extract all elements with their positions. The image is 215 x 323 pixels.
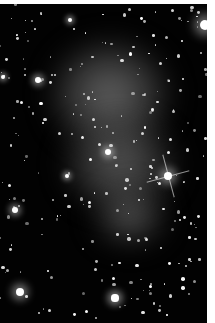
star [82, 292, 85, 295]
star [149, 165, 152, 168]
star [150, 173, 152, 175]
star [181, 277, 185, 281]
star [156, 101, 159, 104]
star [185, 265, 187, 267]
star [174, 201, 175, 202]
star [143, 199, 144, 200]
star [67, 205, 70, 208]
star [13, 197, 16, 200]
star [41, 234, 43, 236]
star [200, 20, 207, 31]
star [8, 77, 10, 79]
star [141, 311, 144, 314]
star [105, 192, 108, 195]
star [11, 244, 13, 246]
nebula-glow-lower [95, 189, 165, 244]
star [27, 40, 29, 42]
star [197, 21, 198, 22]
star [105, 42, 107, 44]
star [196, 16, 197, 17]
star [200, 52, 202, 54]
star [188, 236, 191, 239]
star [105, 149, 111, 155]
star [9, 199, 11, 201]
star [111, 294, 118, 301]
star [58, 132, 61, 135]
star [24, 160, 25, 161]
star [32, 112, 35, 115]
star [164, 283, 165, 284]
star [85, 104, 86, 105]
star [158, 137, 160, 139]
star [0, 45, 1, 47]
star [169, 294, 172, 297]
star [56, 218, 58, 220]
star [165, 36, 168, 39]
star [116, 233, 119, 236]
star [181, 20, 183, 22]
star [16, 34, 18, 36]
star [193, 280, 196, 283]
star [1, 72, 2, 73]
star [91, 56, 94, 59]
star [195, 227, 196, 228]
star [25, 295, 28, 298]
star [196, 177, 199, 180]
star [11, 18, 12, 19]
star [13, 206, 15, 208]
star [179, 89, 182, 92]
star [158, 309, 161, 312]
star [83, 204, 84, 205]
star [205, 73, 207, 76]
star [136, 298, 138, 300]
star [82, 248, 84, 250]
star [25, 20, 26, 21]
star [20, 271, 22, 273]
star [73, 28, 75, 30]
star [9, 248, 12, 251]
star [149, 290, 150, 291]
star [112, 283, 115, 286]
star [85, 32, 87, 34]
star [131, 298, 132, 299]
star [48, 309, 51, 312]
star [197, 11, 200, 14]
star [158, 182, 161, 185]
star [149, 292, 152, 295]
star [92, 91, 93, 92]
star [57, 215, 58, 216]
star [177, 54, 180, 57]
star [40, 80, 42, 82]
star [204, 137, 207, 140]
star [95, 317, 97, 319]
star [13, 117, 15, 119]
star [140, 279, 141, 280]
star [2, 182, 3, 183]
star [42, 122, 43, 123]
star [148, 53, 149, 54]
star [159, 305, 161, 307]
star [188, 258, 191, 261]
star [183, 216, 186, 219]
star [12, 207, 18, 213]
star [190, 222, 193, 225]
star [153, 302, 155, 304]
star [16, 288, 24, 296]
star [1, 266, 4, 269]
star [18, 205, 20, 207]
star [125, 178, 128, 181]
star [5, 58, 8, 61]
star [159, 62, 162, 65]
star [50, 56, 52, 58]
star [38, 172, 39, 173]
star [171, 228, 174, 231]
star [0, 297, 1, 299]
star [24, 74, 26, 76]
star [41, 218, 43, 220]
star [162, 208, 165, 211]
astronomy-image [0, 4, 207, 323]
star [123, 13, 126, 16]
star [190, 261, 191, 262]
star [80, 114, 82, 116]
star [111, 264, 113, 266]
